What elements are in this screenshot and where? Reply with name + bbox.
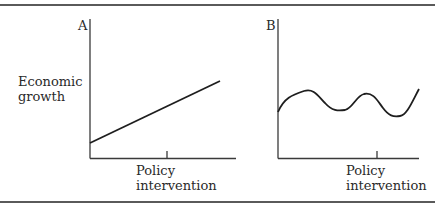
panel-b-wave [278,89,419,116]
y-axis-label-line1: Economic [18,74,83,89]
panel-a-axes [90,19,236,159]
panel-a-label: A [78,18,87,33]
panel-b-x-label-line1: Policy [346,163,385,178]
panel-b-label: B [266,18,276,33]
panel-a-line [90,81,220,143]
panel-b-x-label-line2: intervention [346,178,427,193]
panel-b-axes [278,19,419,159]
panel-a-x-label-line2: intervention [136,178,217,193]
y-axis-label-line2: growth [18,89,65,104]
panel-a-x-label-line1: Policy [136,163,175,178]
